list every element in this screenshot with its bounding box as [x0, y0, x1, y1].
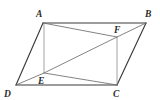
segment-EC	[44, 73, 117, 85]
diagonal-DB	[16, 23, 146, 85]
geometry-figure: A B C D E F	[0, 0, 160, 100]
vertex-label-C: C	[113, 89, 120, 99]
vertex-label-D: D	[3, 89, 11, 99]
interior-chords	[16, 23, 146, 85]
vertex-label-E: E	[37, 76, 44, 86]
geometry-canvas: A B C D E F	[0, 0, 160, 100]
vertical-cevians	[44, 23, 117, 85]
segment-AF	[43, 23, 117, 37]
vertex-label-F: F	[113, 25, 121, 35]
segment-BC	[117, 23, 146, 85]
vertex-label-B: B	[144, 9, 151, 19]
vertex-label-A: A	[35, 9, 42, 19]
